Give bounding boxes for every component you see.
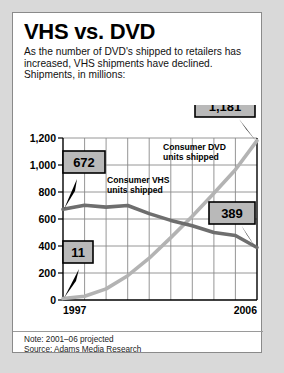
chart-source: Source: Adams Media Research bbox=[24, 345, 252, 355]
series-label-dvd-line2: units shipped bbox=[163, 152, 219, 162]
y-tick-label-200: 200 bbox=[38, 267, 56, 279]
series-label-vhs-line2: units shipped bbox=[107, 185, 163, 195]
y-tick-label-1000: 1,000 bbox=[30, 159, 56, 171]
callout-1181: 1,181 bbox=[195, 105, 256, 141]
chart-note: Note: 2001–06 projected bbox=[24, 335, 252, 345]
series-label-dvd-line1: Consumer DVD bbox=[163, 142, 226, 152]
x-tick-label-end: 2006 bbox=[234, 304, 258, 316]
footer-block: Note: 2001–06 projected Source: Adams Me… bbox=[24, 335, 252, 355]
line-chart-svg: 1,200 1,000 800 600 400 200 0 Consumer V… bbox=[13, 105, 263, 317]
y-tick-label-800: 800 bbox=[38, 186, 56, 198]
callout-672-label: 672 bbox=[73, 155, 95, 170]
page-title: VHS vs. DVD bbox=[24, 19, 155, 45]
callout-1181-label: 1,181 bbox=[209, 105, 242, 114]
infographic-card: VHS vs. DVD As the number of DVD's shipp… bbox=[12, 12, 262, 353]
callout-11: 11 bbox=[63, 241, 93, 298]
y-tick-label-400: 400 bbox=[38, 240, 56, 252]
callout-11-label: 11 bbox=[71, 245, 85, 260]
x-tick-label-start: 1997 bbox=[63, 304, 87, 316]
chart-plot-area: 1,200 1,000 800 600 400 200 0 Consumer V… bbox=[13, 105, 263, 317]
callout-672: 672 bbox=[63, 151, 105, 209]
y-tick-label-1200: 1,200 bbox=[30, 132, 56, 144]
y-tick-label-0: 0 bbox=[50, 294, 56, 306]
series-label-vhs-line1: Consumer VHS bbox=[107, 175, 170, 185]
footer-divider bbox=[13, 331, 263, 332]
y-tick-label-600: 600 bbox=[38, 213, 56, 225]
callout-389-label: 389 bbox=[221, 206, 243, 221]
chart-subtitle: As the number of DVD's shipped to retail… bbox=[24, 46, 254, 81]
